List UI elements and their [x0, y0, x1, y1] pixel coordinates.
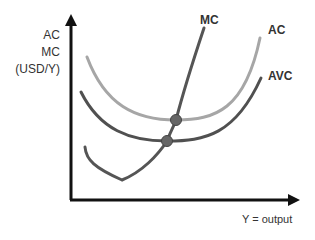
- x-axis-label: Y = output: [242, 213, 292, 225]
- avc-curve-label: AVC: [268, 69, 292, 83]
- x-axis-arrow-icon: [288, 194, 300, 206]
- y-axis-label-mc: MC: [41, 45, 60, 59]
- ac-curve-label: AC: [268, 23, 285, 37]
- mc-avc-intersection-point: [162, 136, 173, 147]
- mc-ac-intersection-point: [171, 115, 182, 126]
- y-axis-arrow-icon: [65, 14, 77, 26]
- y-axis-label-ac: AC: [43, 28, 60, 42]
- mc-curve: [85, 28, 204, 180]
- ac-curve: [87, 38, 260, 120]
- y-axis-label-unit: (USD/Y): [15, 62, 60, 76]
- mc-curve-label: MC: [200, 13, 219, 27]
